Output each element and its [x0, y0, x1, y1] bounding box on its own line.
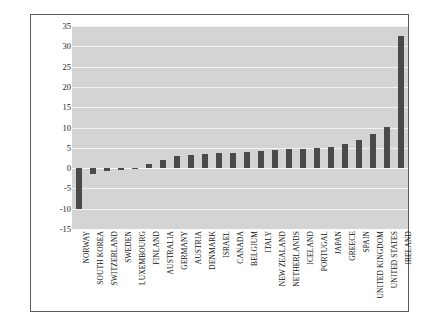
- bar: [384, 127, 390, 168]
- bar-slot: [352, 26, 366, 229]
- bar-slot: [394, 26, 408, 229]
- bar: [174, 156, 180, 168]
- x-tick-label: UNITED STATES: [390, 231, 399, 288]
- bar: [188, 155, 194, 168]
- y-tick-label: -5: [41, 183, 71, 193]
- x-tick-label: IRELAND: [404, 231, 413, 265]
- bar: [272, 150, 278, 168]
- bar-slot: [338, 26, 352, 229]
- x-tick-label: ITALY: [264, 231, 273, 253]
- y-tick-label: 30: [41, 41, 71, 51]
- bar-slot: [254, 26, 268, 229]
- bar: [160, 160, 166, 168]
- bar: [244, 152, 250, 168]
- bar: [216, 153, 222, 168]
- x-tick-label: ISRAEL: [222, 231, 231, 258]
- bar-slot: [86, 26, 100, 229]
- bar: [314, 148, 320, 168]
- bar-slot: [170, 26, 184, 229]
- y-tick-label: -10: [41, 204, 71, 214]
- chart-frame: % OF GDP 35302520151050-5-10-15 NORWAYSO…: [30, 14, 409, 312]
- x-tick-label: NEW ZEALAND: [278, 231, 287, 286]
- bar-slot: [184, 26, 198, 229]
- bar-slot: [72, 26, 86, 229]
- y-tick-label: 20: [41, 82, 71, 92]
- x-tick-label: AUSTRALIA: [166, 231, 175, 274]
- bar-slot: [324, 26, 338, 229]
- y-tick-label: 15: [41, 102, 71, 112]
- x-tick-label: FINLAND: [152, 231, 161, 265]
- x-tick-label: BELGIUM: [250, 231, 259, 266]
- x-tick-label: SWITZERLAND: [110, 231, 119, 285]
- bar-slot: [212, 26, 226, 229]
- y-tick-label: 35: [41, 21, 71, 31]
- x-tick-label: GERMANY: [180, 231, 189, 270]
- x-tick-label: SPAIN: [362, 231, 371, 252]
- bar-slot: [380, 26, 394, 229]
- y-tick-label: 10: [41, 123, 71, 133]
- x-tick-label: SOUTH KOREA: [96, 231, 105, 285]
- bar: [398, 36, 404, 168]
- y-tick-label: 0: [41, 163, 71, 173]
- bar: [202, 154, 208, 168]
- x-tick-label: GREECE: [348, 231, 357, 261]
- x-tick-label: DENMARK: [208, 231, 217, 270]
- bar: [286, 149, 292, 168]
- bar: [342, 144, 348, 168]
- x-tick-label: NORWAY: [82, 231, 91, 263]
- plot-area: [72, 26, 408, 229]
- bar: [300, 149, 306, 168]
- bar-slot: [268, 26, 282, 229]
- bar: [328, 147, 334, 168]
- bar: [90, 168, 96, 174]
- bar-slot: [100, 26, 114, 229]
- y-tick-label: -15: [41, 224, 71, 234]
- bar-slot: [198, 26, 212, 229]
- bar-slot: [282, 26, 296, 229]
- bar-series: [72, 26, 408, 229]
- x-tick-label: ICELAND: [306, 231, 315, 265]
- bar-slot: [296, 26, 310, 229]
- bar: [230, 153, 236, 168]
- bar: [104, 168, 110, 170]
- bar: [118, 168, 124, 170]
- x-tick-label: LUXEMBOURG: [138, 231, 147, 285]
- bar-slot: [114, 26, 128, 229]
- y-axis-tick-labels: 35302520151050-5-10-15: [41, 15, 71, 313]
- x-tick-label: AUSTRIA: [194, 231, 203, 264]
- x-tick-label: SWEDEN: [124, 231, 133, 263]
- bar: [132, 168, 138, 169]
- bar-slot: [156, 26, 170, 229]
- bar-slot: [366, 26, 380, 229]
- bar: [76, 168, 82, 209]
- x-tick-label: PORTUGAL: [320, 231, 329, 271]
- bar-slot: [142, 26, 156, 229]
- y-tick-label: 25: [41, 62, 71, 72]
- bar-slot: [310, 26, 324, 229]
- x-tick-label: NETHERLANDS: [292, 231, 301, 287]
- x-tick-label: UNITED KINGDOM: [376, 231, 385, 298]
- bar: [370, 134, 376, 169]
- bar: [258, 151, 264, 168]
- bar: [146, 164, 152, 168]
- x-tick-label: JAPAN: [334, 231, 343, 254]
- bar-slot: [128, 26, 142, 229]
- bar: [356, 140, 362, 168]
- bar-slot: [240, 26, 254, 229]
- x-axis-category-labels: NORWAYSOUTH KOREASWITZERLANDSWEDENLUXEMB…: [72, 231, 408, 311]
- bar-slot: [226, 26, 240, 229]
- y-tick-label: 5: [41, 143, 71, 153]
- x-tick-label: CANADA: [236, 231, 245, 264]
